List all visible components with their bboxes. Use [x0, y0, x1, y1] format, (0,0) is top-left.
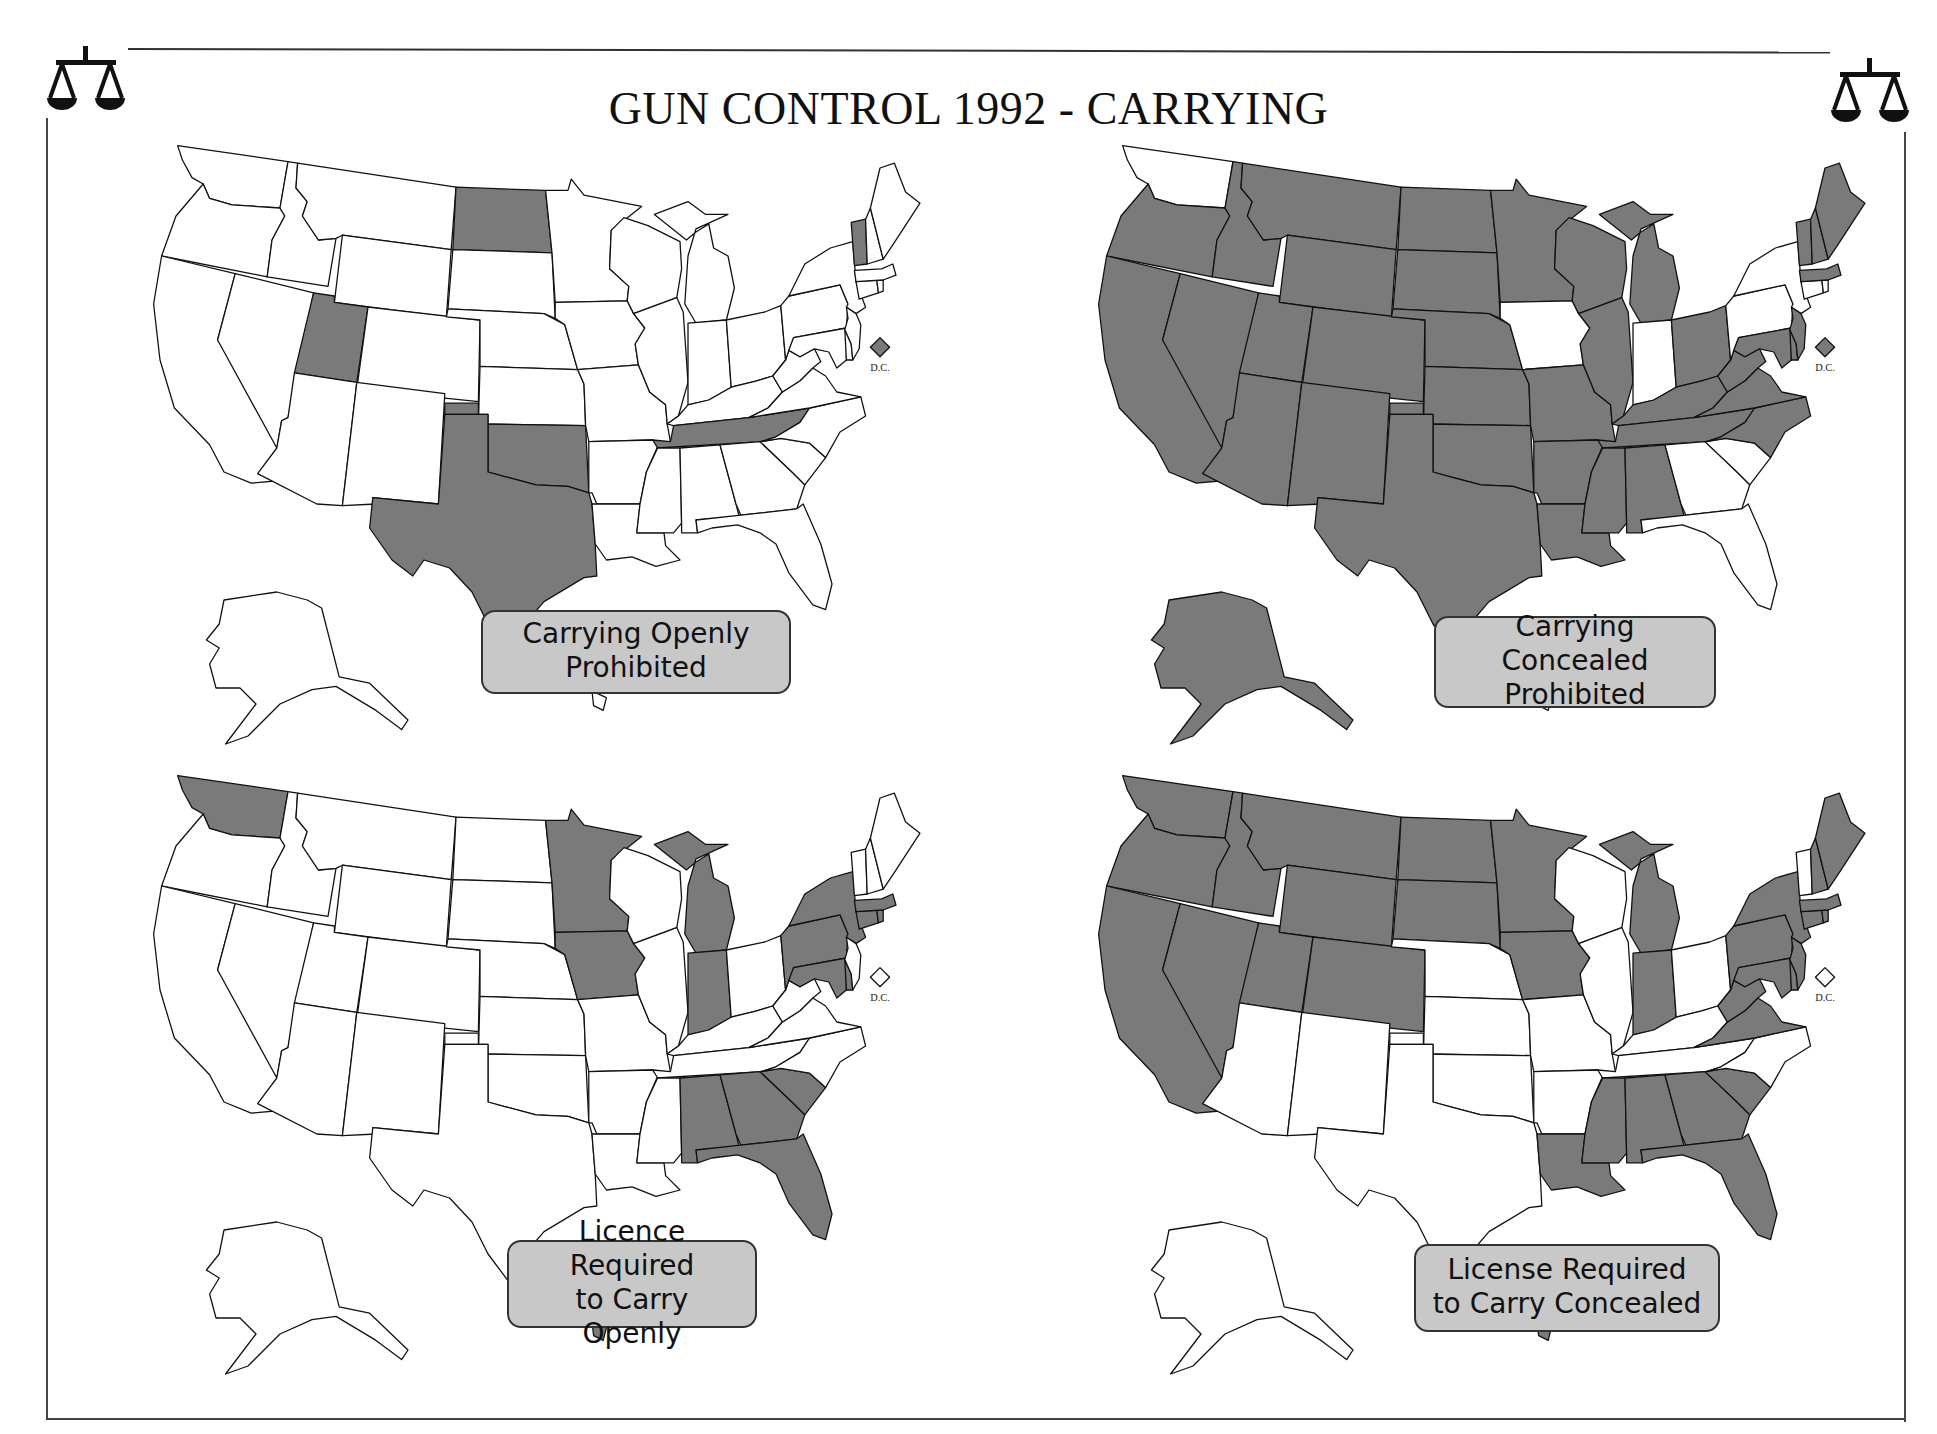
state-fl [1641, 504, 1777, 610]
state-ri [877, 280, 883, 293]
state-nm [342, 1012, 444, 1135]
dc-marker [1815, 968, 1834, 987]
dc-label: D.C. [1815, 992, 1835, 1003]
state-sd [1393, 250, 1500, 319]
legend-carrying-openly-prohibited: Carrying Openly Prohibited [481, 610, 791, 694]
state-nd [1398, 817, 1497, 883]
state-ak [1151, 592, 1353, 744]
state-ks [478, 366, 585, 425]
legend-licence-required-carry-openly: Licence Required to Carry Openly [507, 1240, 757, 1328]
legend-line-1: Carrying Concealed [1450, 610, 1700, 678]
state-ks [1423, 366, 1530, 425]
state-ri [877, 910, 883, 923]
legend-license-required-carry-concealed: License Required to Carry Concealed [1414, 1244, 1720, 1332]
state-mt [1241, 793, 1401, 879]
legend-line-2: to Carry Openly [523, 1283, 741, 1351]
state-vt [1796, 219, 1812, 265]
state-nm [1287, 382, 1389, 505]
state-ct [1801, 280, 1823, 299]
state-ma [1799, 264, 1841, 282]
state-ct [856, 910, 878, 929]
state-ct [1801, 910, 1823, 929]
state-nm [1287, 1012, 1389, 1135]
dc-label: D.C. [1815, 362, 1835, 373]
state-ks [1423, 996, 1530, 1055]
legend-carrying-concealed-prohibited: Carrying Concealed Prohibited [1434, 616, 1716, 708]
legend-line-2: to Carry Concealed [1430, 1287, 1704, 1321]
state-ct [856, 280, 878, 299]
legend-line-1: License Required [1430, 1253, 1704, 1287]
state-ak [206, 1222, 408, 1374]
legend-line-1: Carrying Openly [497, 617, 775, 651]
state-mt [296, 163, 456, 249]
dc-label: D.C. [870, 362, 890, 373]
state-ak [206, 592, 408, 744]
state-ak [1151, 1222, 1353, 1374]
dc-marker [870, 338, 889, 357]
state-mt [296, 793, 456, 879]
state-nd [453, 817, 552, 883]
state-fl [696, 504, 832, 610]
state-ri [1822, 910, 1828, 923]
dc-marker [870, 968, 889, 987]
state-ma [854, 894, 896, 912]
state-sd [448, 880, 555, 949]
state-nd [453, 187, 552, 253]
top-rule [128, 48, 1830, 54]
state-sd [448, 250, 555, 319]
state-mt [1241, 163, 1401, 249]
state-ma [854, 264, 896, 282]
state-vt [851, 849, 867, 895]
state-fl [1641, 1134, 1777, 1240]
frame-border-left [46, 118, 48, 1418]
legend-line-2: Prohibited [1450, 678, 1700, 712]
legend-line-2: Prohibited [497, 651, 775, 685]
state-nm [342, 382, 444, 505]
state-ri [1822, 280, 1828, 293]
state-nd [1398, 187, 1497, 253]
state-vt [851, 219, 867, 265]
state-ks [478, 996, 585, 1055]
dc-marker [1815, 338, 1834, 357]
state-vt [1796, 849, 1812, 895]
frame-border-bottom [46, 1418, 1906, 1420]
state-ma [1799, 894, 1841, 912]
legend-line-1: Licence Required [523, 1215, 741, 1283]
dc-label: D.C. [870, 992, 890, 1003]
state-sd [1393, 880, 1500, 949]
